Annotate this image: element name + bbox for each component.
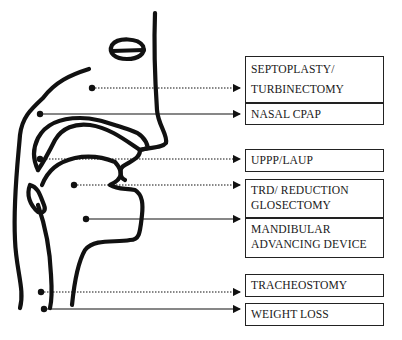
label-uppp-laup: UPPP/LAUP — [245, 149, 384, 172]
label-weight-loss: WEIGHT LOSS — [245, 303, 384, 326]
label-trd-reduction-glosectomy: TRD/ REDUCTION GLOSECTOMY — [245, 179, 384, 218]
label-nasal-cpap: NASAL CPAP — [245, 103, 384, 125]
label-septoplasty-turbinectomy: SEPTOPLASTY/ TURBINECTOMY — [245, 56, 384, 103]
label-line: ADVANCING DEVICE — [251, 237, 383, 252]
label-line: UPPP/LAUP — [251, 153, 383, 168]
face-profile — [140, 13, 166, 150]
label-line: TURBINECTOMY — [251, 80, 383, 100]
label-mandibular-advancing-device: MANDIBULAR ADVANCING DEVICE — [245, 218, 384, 258]
label-line: SEPTOPLASTY/ — [251, 60, 383, 80]
lower-lip — [120, 150, 140, 180]
label-line: NASAL CPAP — [251, 107, 383, 122]
tongue — [42, 157, 142, 305]
label-line: TRD/ REDUCTION — [251, 183, 383, 198]
label-line: GLOSECTOMY — [251, 198, 383, 213]
eye-line — [112, 50, 144, 51]
label-line: TRACHEOSTOMY — [251, 278, 383, 293]
label-tracheostomy: TRACHEOSTOMY — [245, 274, 384, 297]
label-line: MANDIBULAR — [251, 222, 383, 237]
label-line: WEIGHT LOSS — [251, 307, 383, 322]
epiglottis — [28, 185, 44, 213]
